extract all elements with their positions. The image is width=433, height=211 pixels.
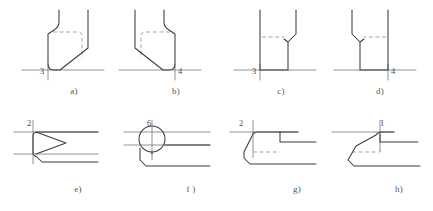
figure-b-dimension: 4 [178,66,182,76]
figure-h-dimension: 1 [380,118,384,128]
figure-f-caption: f ) [171,184,211,194]
figure-c-body-outline [260,10,296,70]
figure-c [228,8,328,86]
figure-g-dimension: 2 [239,118,243,128]
figure-c-dimension: 3 [252,66,256,76]
figure-f-dimension: 6 [147,118,151,128]
figure-a-hidden-outline [53,32,82,58]
figure-g-step-outline [280,132,316,142]
figure-a-dimension: 3 [40,66,44,76]
figure-c-caption: c) [261,86,301,96]
figure-e-caption: e) [58,184,98,194]
figure-h-outer-outline [348,132,420,166]
figure-e-lower-outline [33,152,98,162]
figure-d-body-outline [352,10,388,70]
figure-g-caption: g) [277,184,317,194]
figure-d [330,8,430,86]
drawing-plate: 3 a) 4 b) 3 c) 4 d) [0,0,433,211]
figure-d-shoulder-line [360,39,364,42]
figure-e-dimension: 2 [27,118,31,128]
figure-h-step-outline [380,134,418,142]
figure-e-point-outline [36,132,66,154]
figure-d-dimension: 4 [391,66,395,76]
figure-b [115,8,215,86]
figure-a [20,8,120,86]
figure-f [122,118,226,180]
figure-a-caption: a) [54,86,94,96]
figure-f-lower-outline [140,148,210,166]
figure-b-hidden-outline [141,32,170,58]
figure-d-caption: d) [360,86,400,96]
figure-c-shoulder-line [284,39,288,42]
figure-g [228,118,332,180]
figure-b-caption: b) [156,86,196,96]
figure-h-caption: h) [379,184,419,194]
